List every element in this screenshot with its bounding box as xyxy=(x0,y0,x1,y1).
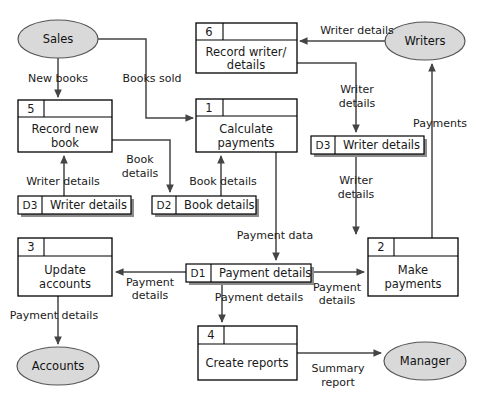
process-record-new-book[interactable]: 5 Record new book xyxy=(18,100,112,152)
flow-label-summary-report-line2: report xyxy=(321,376,355,389)
sales-label: Sales xyxy=(43,32,74,46)
d3-right-code: D3 xyxy=(316,139,331,151)
flow-label-payment-details-to-update-accounts-line1: Payment xyxy=(126,276,175,289)
process-3-label-line2: accounts xyxy=(39,277,91,291)
process-update-accounts[interactable]: 3 Update accounts xyxy=(18,238,112,296)
process-4-label-line1: Create reports xyxy=(206,356,289,370)
process-1-label-line1: Calculate xyxy=(219,122,273,136)
data-store-d3-writer-details-right[interactable]: D3 Writer details xyxy=(311,136,427,157)
process-calculate-payments[interactable]: 1 Calculate payments xyxy=(196,99,297,152)
process-5-label-line2: book xyxy=(51,136,79,150)
process-3-number: 3 xyxy=(27,240,34,254)
process-4-number: 4 xyxy=(207,328,214,342)
external-entity-manager[interactable]: Manager xyxy=(384,342,466,380)
data-store-d2-book-details[interactable]: D2 Book details xyxy=(152,196,259,217)
flow-label-writer-details-from-writers: Writer details xyxy=(320,24,394,37)
process-record-writer-details[interactable]: 6 Record writer/ details xyxy=(196,23,297,73)
flow-label-books-sold: Books sold xyxy=(122,72,181,85)
flow-label-writer-details-to-make-payments-line2: details xyxy=(338,188,375,201)
process-1-label-line2: payments xyxy=(217,136,274,150)
process-2-number: 2 xyxy=(377,240,384,254)
flow-label-writer-details-to-store-line2: details xyxy=(339,97,376,110)
d2-code: D2 xyxy=(157,199,172,211)
flow-label-book-details-store-line1: Book xyxy=(126,153,154,166)
flow-label-book-details-store-line2: details xyxy=(122,167,159,180)
flow-label-payments: Payments xyxy=(413,117,467,130)
flow-label-new-books: New books xyxy=(28,72,88,85)
external-entity-writers[interactable]: Writers xyxy=(385,22,465,60)
process-6-label-line1: Record writer/ xyxy=(206,45,287,59)
flow-label-writer-details-to-record-new-book: Writer details xyxy=(26,175,100,188)
writers-label: Writers xyxy=(404,34,445,48)
data-store-d1-payment-details[interactable]: D1 Payment details xyxy=(186,264,314,285)
process-make-payments[interactable]: 2 Make payments xyxy=(368,238,458,296)
d3-left-code: D3 xyxy=(23,199,38,211)
d1-label: Payment details xyxy=(219,266,311,280)
d3-left-label: Writer details xyxy=(50,198,127,212)
process-3-label-line1: Update xyxy=(44,263,86,277)
process-2-label-line1: Make xyxy=(398,263,428,277)
process-5-label-line1: Record new xyxy=(31,122,98,136)
external-entity-accounts[interactable]: Accounts xyxy=(17,347,99,385)
flow-label-payment-details-to-make-payments-line2: details xyxy=(319,294,356,307)
process-create-reports[interactable]: 4 Create reports xyxy=(198,326,297,380)
flow-label-book-details-to-calculate: Book details xyxy=(189,175,257,188)
flow-label-payment-details-to-create-reports: Payment details xyxy=(215,291,304,304)
d2-label: Book details xyxy=(184,198,255,212)
process-1-number: 1 xyxy=(205,101,212,115)
process-2-label-line2: payments xyxy=(384,277,441,291)
process-6-label-line2: details xyxy=(227,58,265,72)
process-6-number: 6 xyxy=(205,25,212,39)
diagram-canvas: Sales Writers Accounts Manager 5 Record … xyxy=(0,0,477,409)
flow-label-payment-data: Payment data xyxy=(237,229,313,242)
external-entity-sales[interactable]: Sales xyxy=(18,20,98,58)
flow-label-summary-report-line1: Summary xyxy=(311,362,365,375)
flow-label-payment-details-to-make-payments-line1: Payment xyxy=(313,281,362,294)
manager-label: Manager xyxy=(400,354,451,368)
flow-line-book-details-to-store xyxy=(112,140,170,192)
data-flow-diagram: Sales Writers Accounts Manager 5 Record … xyxy=(0,0,477,409)
flow-label-writer-details-to-make-payments-line1: Writer xyxy=(339,174,373,187)
data-store-d3-writer-details-left[interactable]: D3 Writer details xyxy=(18,196,134,217)
flow-label-payment-details-to-accounts: Payment details xyxy=(10,309,99,322)
accounts-label: Accounts xyxy=(32,359,84,373)
process-5-number: 5 xyxy=(27,102,34,116)
flow-label-payment-details-to-update-accounts-line2: details xyxy=(132,289,169,302)
d3-right-label: Writer details xyxy=(343,138,420,152)
d1-code: D1 xyxy=(191,267,206,279)
flow-label-writer-details-to-store-line1: Writer xyxy=(340,83,374,96)
